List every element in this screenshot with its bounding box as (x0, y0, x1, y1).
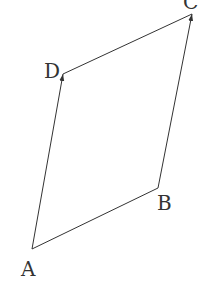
vector-ad (32, 74, 63, 249)
vertex-label-b: B (157, 191, 172, 215)
vector-bc (158, 14, 192, 188)
parallelogram-diagram: A B C D (0, 0, 201, 289)
labels-group: A B C D (20, 0, 198, 281)
vertex-label-a: A (20, 257, 36, 281)
segment-ab (32, 188, 158, 249)
segment-dc (63, 14, 192, 74)
vertex-label-d: D (44, 59, 60, 83)
vertex-label-c: C (183, 0, 198, 14)
